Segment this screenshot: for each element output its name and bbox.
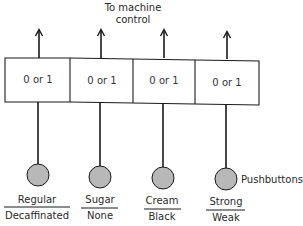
diagram-canvas: To machine control 0 or 1 0 or 1 0 or 1 … bbox=[0, 0, 303, 226]
pushbutton-cream-black[interactable] bbox=[152, 167, 174, 189]
pushbutton-strong-weak[interactable] bbox=[215, 168, 237, 190]
register-cell-1: 0 or 1 bbox=[23, 74, 52, 85]
input-lines bbox=[38, 102, 226, 171]
button-1-top-label: Regular bbox=[18, 194, 57, 205]
button-4-bottom-label: Weak bbox=[212, 212, 240, 223]
pushbutton-sugar-none[interactable] bbox=[89, 166, 111, 188]
button-labels: Regular Decaffinated Sugar None Cream Bl… bbox=[4, 194, 245, 223]
button-2-bottom-label: None bbox=[87, 210, 113, 221]
arrowheads bbox=[36, 30, 231, 39]
button-3-top-label: Cream bbox=[146, 195, 179, 206]
button-4-top-label: Strong bbox=[210, 196, 243, 207]
button-1-bottom-label: Decaffinated bbox=[5, 210, 69, 221]
pushbutton-regular-decaf[interactable] bbox=[27, 164, 49, 186]
title-line-2: control bbox=[116, 14, 151, 25]
register-cell-3: 0 or 1 bbox=[149, 75, 178, 86]
pushbuttons-label: Pushbuttons bbox=[241, 174, 303, 185]
button-3-bottom-label: Black bbox=[148, 211, 175, 222]
button-2-top-label: Sugar bbox=[85, 194, 115, 205]
output-arrows bbox=[39, 31, 227, 59]
register-cell-2: 0 or 1 bbox=[87, 75, 116, 86]
title-line-1: To machine bbox=[104, 2, 162, 13]
register-cell-4: 0 or 1 bbox=[212, 77, 241, 88]
